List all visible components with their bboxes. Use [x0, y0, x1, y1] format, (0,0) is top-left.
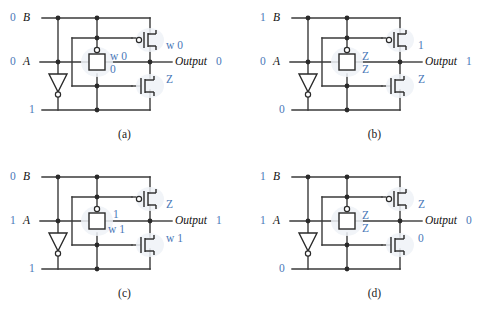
- input-a-label: A: [273, 56, 280, 68]
- inverter-triangle: [49, 233, 67, 256]
- inverter-output-value: 0: [279, 263, 285, 275]
- pmos-inversion-bubble: [386, 196, 391, 201]
- output-label: Output: [425, 56, 457, 68]
- input-b-value: 0: [10, 171, 16, 183]
- panel-a: 0 B 0 A 1 Output 0 w 0 w 0 0 Z (a): [0, 0, 249, 159]
- passgate-box: [339, 54, 355, 70]
- output-value: 1: [466, 56, 472, 68]
- pmos-transistor: [136, 28, 164, 52]
- nmos-right-label: 0: [418, 233, 424, 245]
- panel-caption: (c): [0, 287, 249, 299]
- inverter-body: [299, 74, 317, 92]
- passgate-bottom-label: Z: [362, 223, 369, 235]
- inverter-triangle: [299, 233, 317, 256]
- passgate-box: [339, 213, 355, 229]
- inverter-bubble: [305, 92, 310, 97]
- panel-b: 1 B 0 A 0 Output 1 1 Z Z Z (b): [250, 0, 499, 159]
- nmos-right-label: Z: [418, 74, 425, 86]
- input-b-value: 1: [260, 12, 266, 24]
- pmos-inversion-bubble: [136, 37, 141, 42]
- output-label: Output: [175, 56, 207, 68]
- input-a-value: 0: [260, 56, 266, 68]
- inverter-output-value: 0: [279, 104, 285, 116]
- pmos-right-label: w 0: [166, 40, 183, 52]
- pmos-inversion-bubble: [136, 196, 141, 201]
- inverter-body: [49, 74, 67, 92]
- transmission-gate: [331, 47, 363, 77]
- passgate-box: [89, 54, 105, 70]
- pmos-right-label: Z: [418, 199, 425, 211]
- input-b-value: 1: [260, 171, 266, 183]
- input-a-label: A: [23, 215, 30, 227]
- passgate-bottom-label: Z: [362, 64, 369, 76]
- input-b-label: B: [23, 12, 30, 24]
- pmos-right-label: 1: [418, 40, 424, 52]
- pmos-transistor: [136, 187, 164, 211]
- panel-c: 0 B 1 A 1 Output 1 Z 1 w 1 w 1 (c): [0, 159, 249, 318]
- output-value: 0: [216, 56, 222, 68]
- pmos-right-label: Z: [166, 199, 173, 211]
- pmos-inversion-bubble: [386, 37, 391, 42]
- inverter-triangle: [299, 74, 317, 97]
- panel-caption: (b): [250, 128, 499, 140]
- passgate-top-label: w 0: [110, 51, 127, 63]
- input-b-value: 0: [10, 12, 16, 24]
- input-a-value: 0: [10, 56, 16, 68]
- nmos-transistor: [136, 233, 164, 257]
- passgate-top-label: Z: [362, 51, 369, 63]
- input-a-label: A: [23, 56, 30, 68]
- input-b-label: B: [23, 171, 30, 183]
- passgate-top-label: 1: [113, 209, 119, 221]
- panel-caption: (a): [0, 128, 249, 140]
- output-label: Output: [175, 215, 207, 227]
- input-a-label: A: [273, 215, 280, 227]
- inverter-bubble: [55, 251, 60, 256]
- pmos-transistor: [386, 187, 414, 211]
- inverter-bubble: [305, 251, 310, 256]
- nmos-transistor: [386, 233, 414, 257]
- input-a-value: 1: [260, 215, 266, 227]
- passgate-bubble: [94, 206, 99, 211]
- inverter-output-value: 1: [29, 263, 35, 275]
- nmos-transistor: [386, 74, 414, 98]
- pmos-transistor: [386, 28, 414, 52]
- output-value: 1: [216, 215, 222, 227]
- passgate-bubble: [94, 47, 99, 52]
- inverter-triangle: [49, 74, 67, 97]
- passgate-bubble: [344, 206, 349, 211]
- passgate-bottom-label: 0: [110, 64, 116, 76]
- transmission-gate: [331, 206, 363, 236]
- nmos-right-label: w 1: [166, 233, 183, 245]
- inverter-bubble: [55, 92, 60, 97]
- panel-caption: (d): [250, 287, 499, 299]
- passgate-bottom-label: w 1: [108, 224, 125, 236]
- output-label: Output: [425, 215, 457, 227]
- circuit-figure: 0 B 0 A 1 Output 0 w 0 w 0 0 Z (a): [0, 0, 499, 318]
- inverter-body: [299, 233, 317, 251]
- input-b-label: B: [273, 171, 280, 183]
- passgate-box: [89, 213, 105, 229]
- output-value: 0: [466, 215, 472, 227]
- passgate-bubble: [344, 47, 349, 52]
- nmos-right-label: Z: [166, 74, 173, 86]
- inverter-body: [49, 233, 67, 251]
- inverter-output-value: 1: [29, 104, 35, 116]
- panel-d: 1 B 1 A 0 Output 0 Z Z Z 0 (d): [250, 159, 499, 318]
- nmos-transistor: [136, 74, 164, 98]
- input-a-value: 1: [10, 215, 16, 227]
- input-b-label: B: [273, 12, 280, 24]
- passgate-top-label: Z: [362, 210, 369, 222]
- transmission-gate: [81, 47, 113, 77]
